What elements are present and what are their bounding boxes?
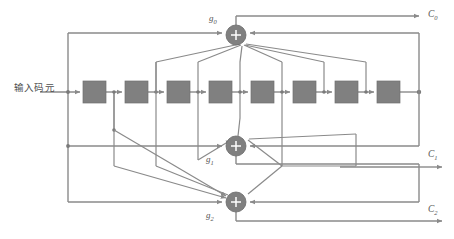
register-block-5 [251,81,274,103]
g0-fanin-lines [156,44,366,62]
register-block-8 [377,81,400,103]
adder-g0 [226,25,246,45]
adder-label-g2: g2 [206,211,214,222]
input-tap-bus [66,33,222,202]
register-block-4 [209,81,232,103]
adder-label-g1-sub: 1 [211,159,214,166]
output-label-c0: C0 [428,10,438,21]
adder-label-g1: g1 [206,155,214,166]
register-block-2 [125,81,148,103]
register-tap-stubs [112,62,421,166]
output-label-c2-sub: 2 [434,209,437,216]
output-label-c1-sub: 1 [434,154,437,161]
register-block-1 [83,81,106,103]
c0-output-path [236,16,419,25]
encoder-schematic [0,0,454,239]
input-label: 输入码元 [14,83,55,93]
c1-output-path [236,156,442,167]
adder-g1 [226,136,246,156]
adder-label-g0: g0 [209,14,217,25]
c2-output-path [236,212,442,221]
g1-fanin-lines [198,118,356,166]
register-block-3 [167,81,190,103]
adder-label-g2-sub: 2 [211,215,214,222]
output-label-c1: C1 [428,150,438,161]
adder-label-g0-sub: 0 [214,18,217,25]
output-label-c2: C2 [428,205,438,216]
convolutional-encoder-diagram: 输入码元 g0 g1 g2 C0 C1 C2 [0,0,454,239]
adder-g2 [226,192,246,212]
register-block-7 [335,81,358,103]
output-label-c0-sub: 0 [434,14,437,21]
register-block-6 [293,81,316,103]
